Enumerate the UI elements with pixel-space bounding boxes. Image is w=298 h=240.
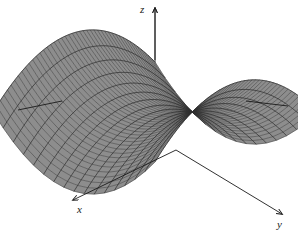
axis-label-z: z <box>139 3 145 15</box>
surface-plot-canvas: z x y <box>0 0 298 240</box>
axis-label-x: x <box>76 203 82 215</box>
surface-mesh <box>0 30 298 194</box>
saddle-surface-figure: z x y <box>0 0 298 240</box>
axis-label-y: y <box>276 218 282 230</box>
